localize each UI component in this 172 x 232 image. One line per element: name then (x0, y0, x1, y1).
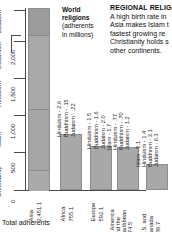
side-note-line3: fastest growing re (110, 30, 172, 39)
world-religions-infographic: 0 500 1,000 1,500 2,000 Christianity Isl… (0, 0, 172, 232)
annotation-europe-buddhism: Buddhism - 1.6 (93, 111, 99, 149)
y-tick-500 (14, 152, 25, 153)
segment-label-christianity: Christianity (0, 166, 2, 197)
chart-subtitle-line2: in millions) (62, 31, 104, 39)
bar-asia-segment-judaism (29, 9, 49, 35)
side-note-line2: Asia makes Islam t (110, 21, 172, 30)
y-tick-label-0: 0 (9, 200, 16, 203)
bar-value-europe: 592.1 (98, 207, 104, 222)
bar-value-latin-america: 574.5 (127, 222, 133, 232)
y-tick-label-500: 500 (9, 163, 16, 173)
bar-europe (90, 146, 112, 190)
y-tick-label-1500: 1,500 (9, 87, 16, 102)
chart-title-block: World religions (adherents in millions) (62, 6, 104, 39)
bar-asia-segment-hinduism (29, 36, 49, 109)
chart-subtitle-line1: (adherents (62, 22, 104, 30)
bar-label-us-canada-line2: Canada (148, 216, 154, 232)
y-tick-1000 (14, 115, 25, 116)
y-tick-top (14, 10, 25, 11)
bar-label-europe: Europe (90, 203, 96, 222)
bar-us-canada (146, 164, 168, 190)
side-note-line1: A high birth rate in (110, 13, 172, 22)
segment-label-judaism: Judaism (0, 10, 2, 33)
annotation-africa-judaism: Judaism - .22 (70, 103, 76, 137)
y-tick-2000 (14, 41, 25, 42)
chart-title-line2: religions (62, 14, 104, 22)
side-note-line4: Christianity holds s (110, 38, 172, 47)
total-adherents-label: Total adherents (2, 219, 50, 226)
annotation-us-canada-judaism: Judaism - 6.3 (153, 133, 159, 167)
bar-asia-segment-islam (29, 110, 49, 170)
side-note-heading: REGIONAL RELIGIO (110, 4, 172, 13)
annotation-latin-america-judaism: Judaism - 1.2 (124, 116, 130, 150)
segment-label-hinduism: Hinduism (0, 81, 2, 107)
bar-value-us-canada-number: 289.7 (155, 222, 161, 232)
bar-asia-segment-christianity (29, 171, 49, 191)
annotation-africa-hinduism: Hinduism - 2.6 (56, 101, 62, 137)
bar-label-africa-name: Africa (60, 207, 66, 222)
bar-asia (28, 8, 50, 190)
side-note-block: REGIONAL RELIGIO A high birth rate in As… (110, 4, 172, 56)
bar-label-us-canada-line1: U.S. and (141, 214, 147, 232)
y-axis-line (25, 8, 26, 190)
y-tick-0 (14, 190, 25, 191)
y-tick-label-1000: 1,000 (9, 124, 16, 139)
bar-label-us-canada-text2: Canada (148, 216, 154, 232)
chart-title-line1: World (62, 6, 104, 14)
bar-value-us-canada: 289.7 (155, 222, 161, 232)
bar-value-latin-america-number: 574.5 (127, 222, 133, 232)
annotation-europe-hinduism: Hinduism - 1.5 (86, 113, 92, 149)
segment-bracket-top (11, 35, 21, 36)
bar-label-us-canada-text1: U.S. and (141, 214, 147, 232)
bar-label-europe-name: Europe (90, 203, 96, 222)
bar-label-africa: Africa (60, 207, 66, 222)
bar-value-africa: 755.1 (68, 207, 74, 222)
y-tick-1500 (14, 78, 25, 79)
bar-value-europe-number: 592.1 (98, 207, 104, 222)
segment-label-islam: Islam (0, 132, 2, 147)
segment-label-buddhism: Buddhism (0, 41, 2, 69)
side-note-line5: other continents. (110, 47, 172, 56)
bar-value-africa-number: 755.1 (68, 207, 74, 222)
segment-bracket-vertical (11, 35, 12, 53)
bar-africa (60, 134, 82, 190)
annotation-africa-buddhism: Buddhism - .15 (63, 99, 69, 137)
